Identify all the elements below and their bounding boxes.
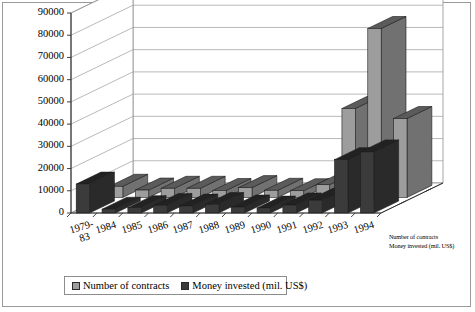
y-axis-tick-label: 90000: [6, 7, 64, 17]
legend-swatch-icon: [72, 282, 80, 290]
z-axis-series-label: Money invested (mil. US$): [389, 242, 454, 249]
y-axis-tick-label: 30000: [6, 140, 64, 150]
legend-entry-number-of-contracts: Number of contracts: [72, 280, 169, 291]
y-axis-ticks: [67, 13, 71, 213]
y-axis-tick-label: 80000: [6, 29, 64, 39]
z-axis-series-label: Number of contracts: [389, 233, 438, 240]
y-axis-tick-label: 0: [6, 207, 64, 217]
y-axis-tick-label: 60000: [6, 74, 64, 84]
legend-label: Number of contracts: [83, 280, 169, 291]
bar-number-of-contracts: [394, 107, 432, 198]
y-axis-tick-label: 50000: [6, 96, 64, 106]
plot-svg: [0, 0, 475, 312]
legend-swatch-icon: [181, 282, 189, 290]
y-axis-tick-label: 10000: [6, 185, 64, 195]
legend-entry-money-invested: Money invested (mil. US$): [181, 280, 307, 291]
plot-area: [0, 0, 475, 312]
legend-label: Money invested (mil. US$): [192, 280, 307, 291]
y-axis-tick-label: 20000: [6, 163, 64, 173]
chart-legend: Number of contracts Money invested (mil.…: [64, 276, 287, 295]
y-axis-tick-label: 40000: [6, 118, 64, 128]
bar-money-invested: [360, 140, 398, 213]
y-axis-tick-label: 70000: [6, 51, 64, 61]
chart-container: 0100002000030000400005000060000700008000…: [0, 0, 475, 312]
